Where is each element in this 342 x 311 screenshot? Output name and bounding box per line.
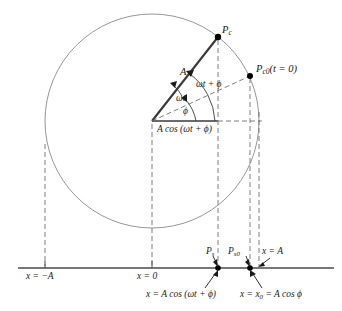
leader-callout-right [253, 274, 262, 288]
label-angle-phi: ϕ [183, 107, 188, 117]
label-point-pc: Pc [222, 25, 232, 37]
leader-callout-left [205, 274, 215, 288]
label-angle-omega-t: ωt [176, 94, 185, 104]
arrowhead-omega-t [170, 81, 177, 88]
label-point-ps0: Ps0 [228, 247, 240, 258]
label-axis-minus-a: x = −A [26, 272, 54, 282]
point-ps-marker [215, 265, 221, 271]
leader-callout-right-head [250, 270, 256, 277]
label-axis-zero: x = 0 [137, 272, 157, 282]
label-point-pc0: Pc0(t = 0) [256, 64, 297, 76]
point-pc-marker [215, 34, 221, 40]
label-projection-a-cos: A cos (ωt + ϕ) [157, 125, 212, 135]
point-ps0-marker [247, 265, 253, 271]
point-pc0-marker [247, 73, 253, 79]
shm-circular-motion-figure: Pc Pc0(t = 0) A ωt + ϕ ωt ϕ A cos (ωt + … [0, 0, 342, 311]
label-point-ps: Ps [206, 247, 214, 258]
leader-ps0-head [245, 259, 250, 267]
callout-x-equals-a-cos-omega-t-plus-phi: x = A cos (ωt + ϕ) [146, 290, 216, 300]
label-radius-a: A [180, 67, 186, 78]
label-axis-a: x = A [262, 247, 283, 257]
leader-ps-head [213, 259, 218, 267]
diagram-canvas [0, 0, 342, 311]
label-angle-omega-t-plus-phi: ωt + ϕ [196, 80, 221, 90]
callout-x-equals-x0-equals-a-cos-phi: x = x0 = A cos ϕ [240, 290, 302, 301]
